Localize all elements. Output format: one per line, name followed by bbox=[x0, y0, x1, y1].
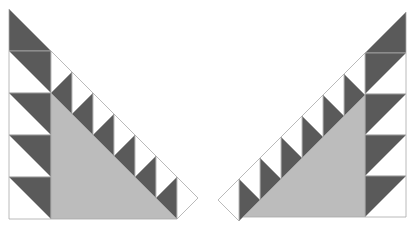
right-quilt-block bbox=[218, 12, 406, 221]
white-tooth bbox=[218, 179, 239, 221]
dark-triangle bbox=[365, 12, 406, 53]
left-quilt-block bbox=[9, 9, 198, 219]
dark-triangle bbox=[9, 9, 51, 51]
white-tooth bbox=[177, 177, 198, 219]
quilt-diagram-canvas bbox=[0, 0, 414, 234]
